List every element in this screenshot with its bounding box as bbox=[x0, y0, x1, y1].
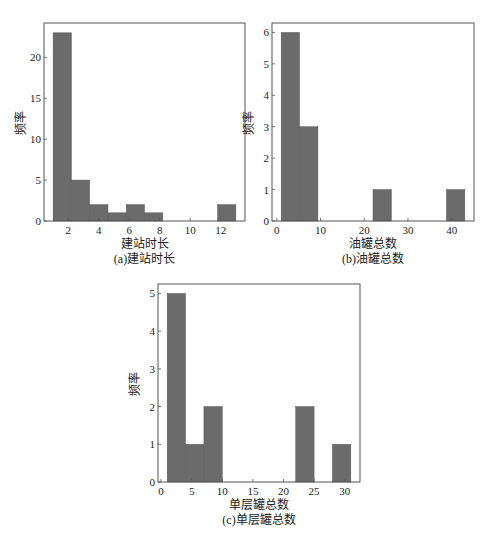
histogram-c-plot: 051015202530012345 bbox=[118, 244, 400, 522]
histogram-bar bbox=[332, 444, 350, 482]
y-tick-label: 6 bbox=[264, 26, 270, 38]
x-tick-label: 40 bbox=[446, 224, 458, 236]
histogram-bar bbox=[300, 127, 318, 221]
histogram-b-plot: 0102030400123456 bbox=[232, 0, 494, 261]
x-tick-label: 0 bbox=[158, 485, 164, 497]
y-tick-label: 1 bbox=[150, 438, 156, 450]
histogram-b-ylabel: 频率 bbox=[239, 103, 257, 143]
histogram-bar bbox=[281, 32, 299, 221]
histogram-bar bbox=[446, 190, 464, 221]
x-tick-label: 5 bbox=[189, 485, 195, 497]
y-tick-label: 0 bbox=[36, 215, 42, 227]
histogram-c: 051015202530012345 bbox=[118, 244, 400, 522]
y-tick-label: 2 bbox=[264, 152, 270, 164]
histogram-bar bbox=[204, 407, 222, 482]
y-tick-label: 20 bbox=[30, 51, 42, 63]
histogram-c-ylabel: 频率 bbox=[125, 364, 143, 404]
y-tick-label: 4 bbox=[264, 89, 270, 101]
y-tick-label: 4 bbox=[150, 325, 156, 337]
y-tick-label: 5 bbox=[150, 287, 156, 299]
histogram-bar bbox=[71, 180, 89, 221]
y-tick-label: 1 bbox=[264, 184, 270, 196]
y-tick-label: 0 bbox=[264, 215, 270, 227]
y-tick-label: 3 bbox=[264, 121, 270, 133]
histogram-bar bbox=[108, 213, 126, 221]
y-tick-label: 5 bbox=[264, 58, 270, 70]
x-tick-label: 30 bbox=[339, 485, 351, 497]
x-tick-label: 12 bbox=[215, 224, 226, 236]
y-tick-label: 2 bbox=[150, 401, 156, 413]
y-tick-label: 15 bbox=[30, 92, 42, 104]
histogram-bar bbox=[53, 33, 71, 221]
x-tick-label: 0 bbox=[274, 224, 280, 236]
y-tick-label: 0 bbox=[150, 476, 156, 488]
y-tick-label: 3 bbox=[150, 363, 156, 375]
y-tick-label: 10 bbox=[30, 133, 42, 145]
histogram-b: 0102030400123456 bbox=[232, 0, 494, 261]
y-tick-label: 5 bbox=[36, 174, 42, 186]
histogram-bar bbox=[186, 444, 204, 482]
x-tick-label: 2 bbox=[66, 224, 72, 236]
histogram-bar bbox=[296, 407, 314, 482]
histogram-a-ylabel: 频率 bbox=[11, 103, 29, 143]
histogram-bar bbox=[373, 190, 391, 221]
histogram-c-caption: (c)单层罐总数 bbox=[199, 510, 319, 528]
histogram-bar bbox=[167, 293, 185, 482]
